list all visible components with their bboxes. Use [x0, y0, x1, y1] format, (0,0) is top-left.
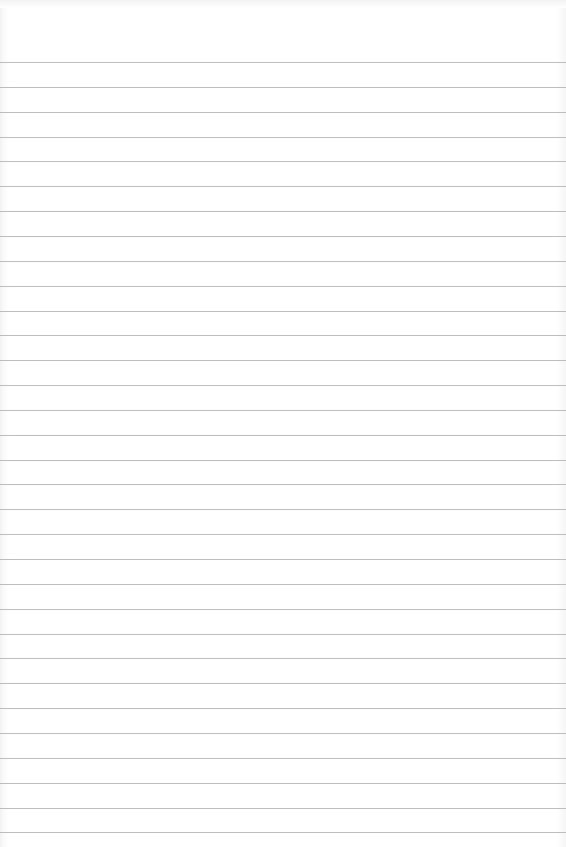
ruled-line [0, 186, 566, 187]
ruled-line [0, 509, 566, 510]
ruled-line [0, 385, 566, 386]
ruled-line [0, 335, 566, 336]
ruled-line [0, 733, 566, 734]
ruled-line [0, 460, 566, 461]
ruled-line [0, 236, 566, 237]
ruled-line [0, 112, 566, 113]
ruled-line [0, 87, 566, 88]
ruled-line [0, 808, 566, 809]
ruled-line [0, 634, 566, 635]
ruled-line [0, 261, 566, 262]
ruled-line [0, 609, 566, 610]
ruled-line [0, 683, 566, 684]
ruled-line [0, 435, 566, 436]
ruled-line [0, 658, 566, 659]
ruled-line [0, 559, 566, 560]
ruled-line [0, 783, 566, 784]
ruled-line [0, 286, 566, 287]
paper-top-edge [0, 0, 566, 8]
ruled-line [0, 534, 566, 535]
ruled-line [0, 708, 566, 709]
ruled-line [0, 62, 566, 63]
ruled-paper-sheet [0, 0, 566, 847]
ruled-line [0, 311, 566, 312]
ruled-line [0, 410, 566, 411]
ruled-line [0, 484, 566, 485]
ruled-line [0, 161, 566, 162]
ruled-line [0, 137, 566, 138]
ruled-line [0, 832, 566, 833]
ruled-line [0, 211, 566, 212]
ruled-line [0, 758, 566, 759]
ruled-line [0, 584, 566, 585]
ruled-line [0, 360, 566, 361]
